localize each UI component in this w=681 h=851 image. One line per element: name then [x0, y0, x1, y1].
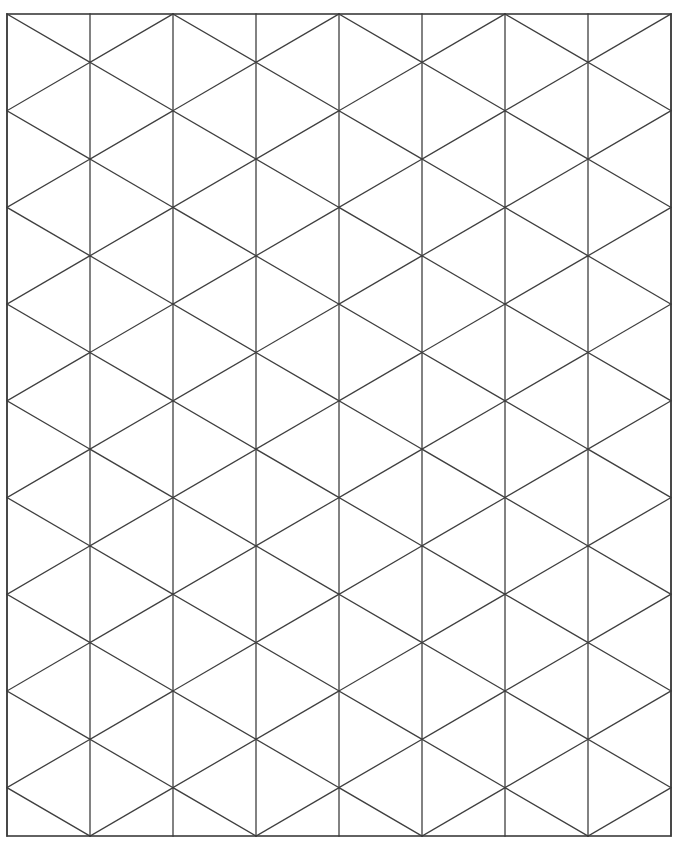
- grid-canvas: [0, 0, 681, 851]
- canvas-background: [0, 0, 681, 851]
- isometric-grid-drawing: [0, 0, 681, 851]
